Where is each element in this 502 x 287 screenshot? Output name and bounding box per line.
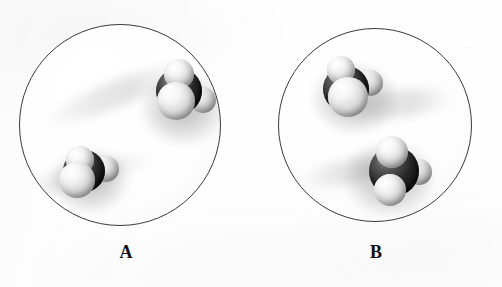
outer-atom	[328, 77, 368, 117]
outer-atom	[59, 162, 95, 198]
panel-a-circle	[19, 24, 221, 226]
outer-atom	[376, 136, 408, 168]
panel-b-circle	[278, 28, 472, 222]
figure-canvas: A B ......	[0, 0, 502, 287]
scan-artifact: ......	[460, 43, 479, 49]
outer-atom	[374, 174, 406, 206]
panel-a-label: A	[106, 243, 146, 261]
panel-b-label: B	[356, 243, 396, 261]
outer-atom	[157, 82, 195, 120]
